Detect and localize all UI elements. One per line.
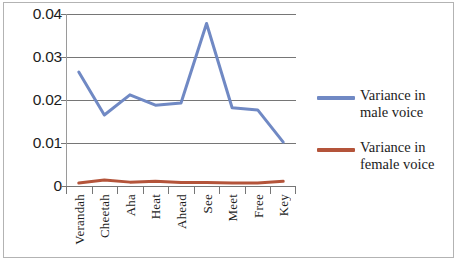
x-tick-mark xyxy=(117,186,118,194)
x-axis-category-label: Key xyxy=(276,194,292,216)
x-tick-mark xyxy=(295,186,296,194)
x-tick-mark xyxy=(245,186,246,194)
x-axis-category-label: Aha xyxy=(123,194,139,216)
x-tick-mark xyxy=(143,186,144,194)
series-line xyxy=(79,23,283,142)
plot-area xyxy=(66,14,296,186)
chart-plot-wrapper: 00.010.020.030.04 VerandahCheetahAhaHeat… xyxy=(4,3,455,259)
series-line xyxy=(79,180,283,183)
x-tick-mark xyxy=(194,186,195,194)
x-tick-mark xyxy=(168,186,169,194)
legend-entry[interactable]: Variance in female voice xyxy=(314,139,454,177)
legend-color-swatch xyxy=(317,148,355,152)
x-axis-ticks xyxy=(66,186,296,194)
x-axis-category-label: Free xyxy=(251,194,267,218)
y-axis-tick-label: 0.02 xyxy=(6,92,62,108)
chart-container: 00.010.020.030.04 VerandahCheetahAhaHeat… xyxy=(3,2,454,258)
x-axis-labels: VerandahCheetahAhaHeatAheadSeeMeetFreeKe… xyxy=(66,194,296,260)
y-axis-tick-label: 0.01 xyxy=(6,135,62,151)
legend-label: Variance in male voice xyxy=(360,87,456,121)
x-tick-mark xyxy=(219,186,220,194)
x-axis-category-label: Meet xyxy=(225,194,241,222)
x-tick-mark xyxy=(270,186,271,194)
y-axis-tick-label: 0.04 xyxy=(6,6,62,22)
y-axis-tick-label: 0 xyxy=(6,178,62,194)
x-axis-category-label: Cheetah xyxy=(97,194,113,238)
x-tick-mark xyxy=(66,186,67,194)
x-axis-category-label: Verandah xyxy=(72,194,88,245)
legend-color-swatch xyxy=(317,96,355,100)
x-tick-mark xyxy=(92,186,93,194)
x-axis-category-label: Heat xyxy=(148,194,164,219)
x-axis-category-label: Ahead xyxy=(174,194,190,229)
x-axis-category-label: See xyxy=(200,194,216,213)
series-lines xyxy=(66,14,296,186)
chart-legend: Variance in male voiceVariance in female… xyxy=(314,87,454,191)
legend-entry[interactable]: Variance in male voice xyxy=(314,87,454,125)
y-axis: 00.010.020.030.04 xyxy=(4,3,62,259)
legend-label: Variance in female voice xyxy=(360,139,456,173)
y-axis-tick-label: 0.03 xyxy=(6,49,62,65)
